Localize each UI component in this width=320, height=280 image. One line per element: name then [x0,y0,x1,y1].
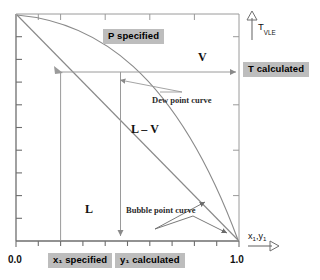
y-axis-label-subscript: VLE [264,29,276,36]
t-axis-arrow [247,11,257,40]
x-axis-tick-max: 1.0 [230,255,244,265]
annotation-x1-specified: x₁ specified [48,253,112,268]
x-axis-ticks [16,241,239,247]
region-label-vapor: V [198,51,207,63]
x-axis-label-y-subscript: 1 [263,235,266,242]
curve-label-bubble-point: Bubble point curve [126,206,195,215]
x-axis-label-x-subscript: 1 [253,235,256,242]
y-axis-label-main: T [258,21,264,32]
region-label-two-phase: L – V [131,123,159,135]
phase-diagram-figure: P specified V T calculated Dew point cur… [0,0,320,280]
x-axis-label-x: x [248,231,253,241]
tie-line-left-arrow [54,66,63,74]
annotation-p-specified: P specified [103,29,164,44]
x-axis-label: x1,y1 [248,232,266,241]
right-axis-ticks [233,37,239,196]
y-axis-ticks [16,37,22,219]
curve-label-dew-point: Dew point curve [152,96,212,105]
annotation-t-calculated: T calculated [243,62,309,77]
x-axis-label-y: ,y [256,231,263,241]
y-axis-label: TVLE [258,22,276,34]
region-label-liquid: L [85,203,93,215]
dew-curve-leader [120,80,182,92]
annotation-y1-calculated: y₁ calculated [115,253,185,268]
x-axis-arrow [248,241,279,251]
x-axis-tick-min: 0.0 [8,255,22,265]
top-axis-ticks [38,14,194,20]
